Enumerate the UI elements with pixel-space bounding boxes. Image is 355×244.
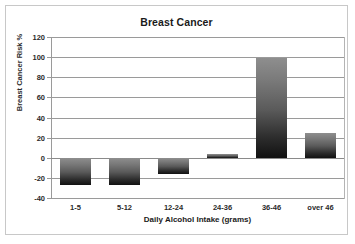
x-tick-label-5-12: 5-12 — [100, 203, 149, 212]
x-axis-title: Daily Alcohol Intake (grams) — [51, 215, 344, 224]
gridline-20 — [51, 138, 344, 139]
x-tick-label-36-46: 36-46 — [247, 203, 296, 212]
bar-over-46[interactable] — [305, 133, 336, 158]
bar-24-36[interactable] — [207, 154, 238, 158]
gridline-neg40 — [51, 198, 344, 199]
x-tick-label-12-24: 12-24 — [149, 203, 198, 212]
bar-12-24[interactable] — [158, 158, 189, 174]
plot-area — [51, 37, 344, 198]
gridline-120 — [51, 37, 344, 38]
y-tick-label: -40 — [11, 194, 45, 203]
chart-frame: Breast Cancer Breast Cancer Risk % 120 1… — [5, 5, 348, 235]
y-tick-label: 60 — [11, 93, 45, 102]
bar-5-12[interactable] — [109, 158, 140, 185]
gridline-60 — [51, 97, 344, 98]
gridline-80 — [51, 77, 344, 78]
y-tick-label: 0 — [11, 154, 45, 163]
y-tick-label: 40 — [11, 114, 45, 123]
y-tick-label: 80 — [11, 73, 45, 82]
x-tick-label-24-36: 24-36 — [198, 203, 247, 212]
y-tick-label: 100 — [11, 53, 45, 62]
gridline-zero — [51, 158, 344, 159]
gridline-100 — [51, 57, 344, 58]
y-tick-label: 20 — [11, 134, 45, 143]
bar-1-5[interactable] — [60, 158, 91, 185]
y-tick-label: 120 — [11, 33, 45, 42]
plot-right-border — [344, 37, 345, 199]
x-tick-label-over-46: over 46 — [296, 203, 345, 212]
chart-title: Breast Cancer — [6, 16, 347, 28]
y-tick-label: -20 — [11, 174, 45, 183]
y-axis-tick-labels: 120 100 80 60 40 20 0 -20 -40 — [6, 6, 45, 236]
gridline-neg20 — [51, 178, 344, 179]
bar-36-46[interactable] — [256, 58, 287, 158]
gridline-40 — [51, 118, 344, 119]
x-tick-label-1-5: 1-5 — [51, 203, 100, 212]
